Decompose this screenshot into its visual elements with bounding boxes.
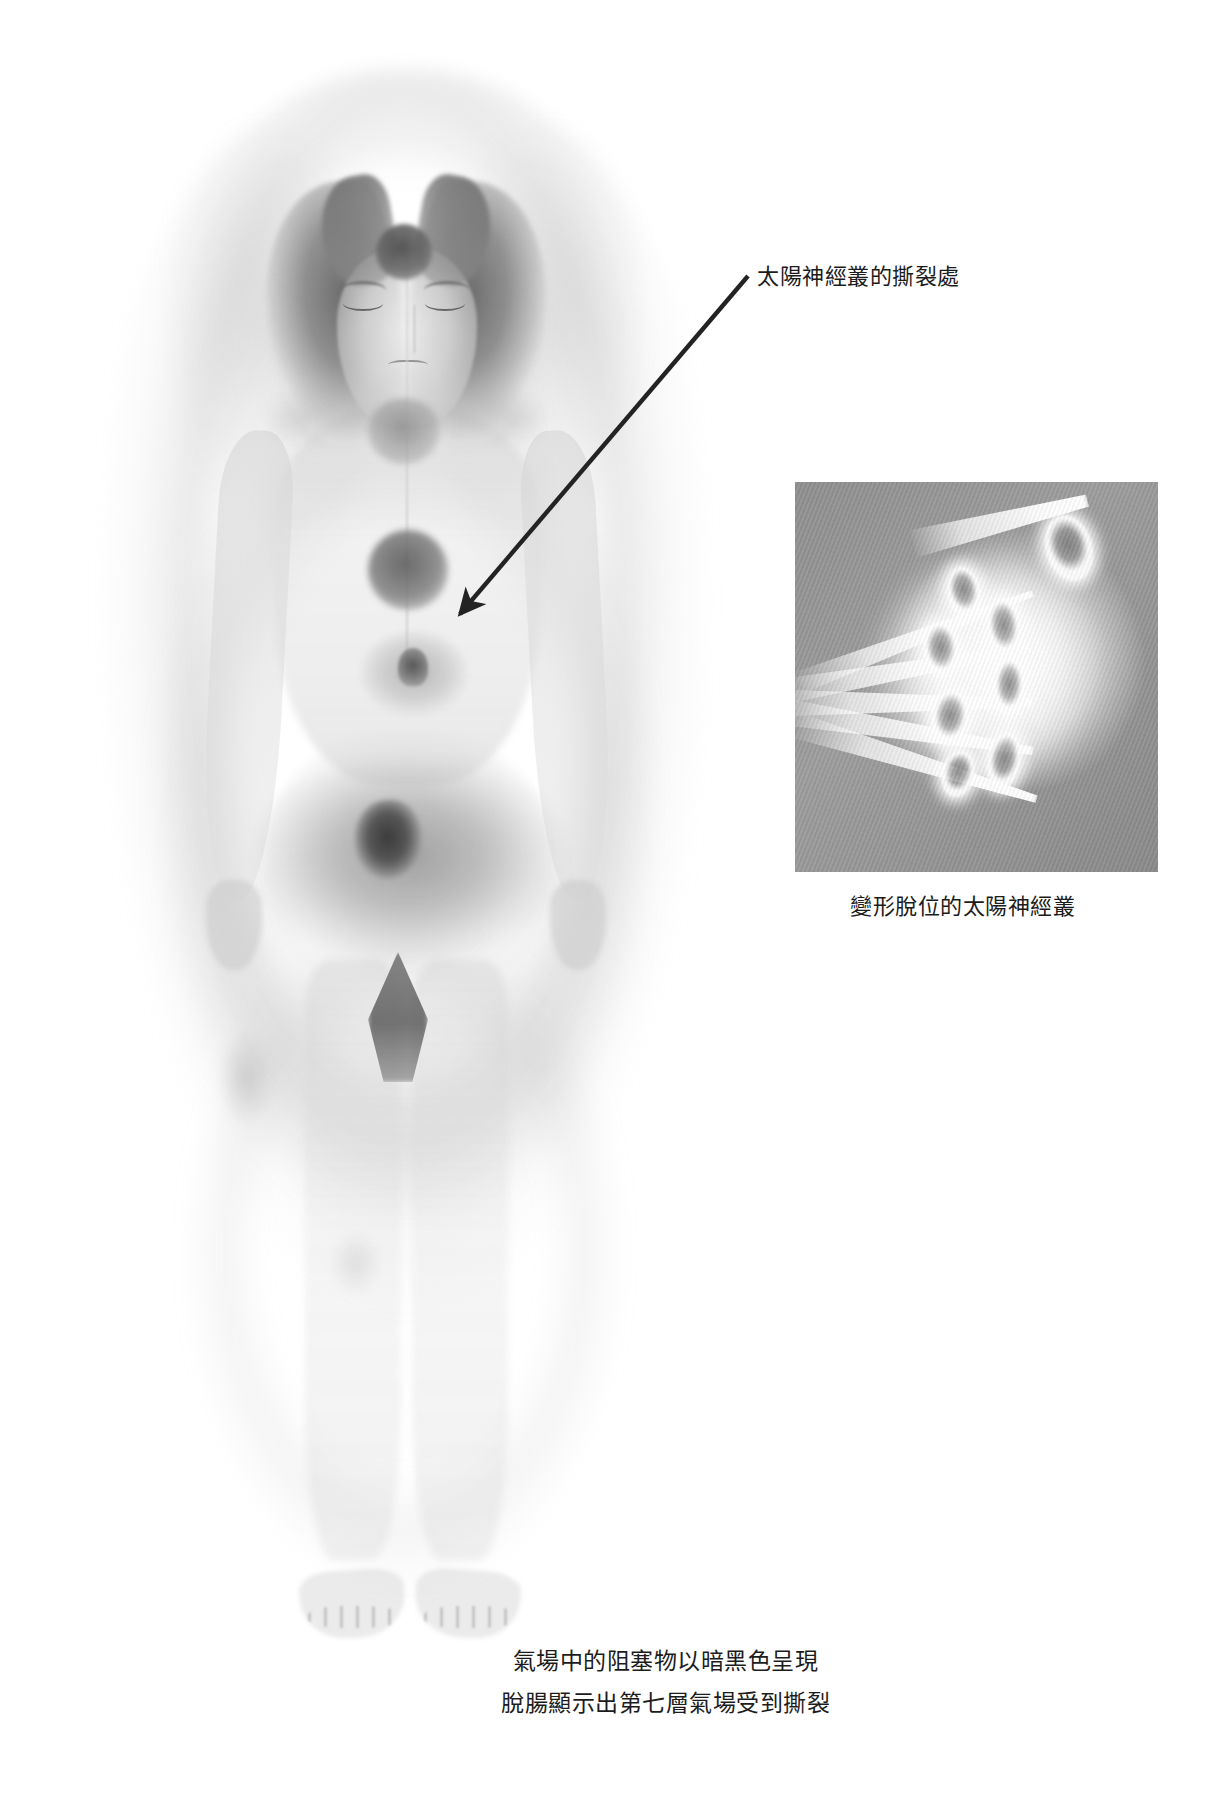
hand-right — [550, 880, 606, 970]
aura-spot-thigh-left — [218, 1030, 274, 1126]
central-energy-line — [406, 255, 408, 675]
toes-left — [308, 1606, 400, 1628]
label-inset-caption: 變形脫位的太陽神經叢 — [850, 888, 1075, 920]
eye-left-closed — [343, 296, 383, 311]
arm-right — [518, 428, 616, 901]
leg-right — [412, 960, 508, 1560]
hand-left — [206, 880, 262, 970]
foot-right — [413, 1566, 522, 1641]
foot-left — [298, 1566, 407, 1641]
toes-right — [424, 1606, 516, 1628]
hips — [268, 735, 548, 995]
solar-plexus-detail-panel — [795, 482, 1158, 872]
caption-line-1: 氣場中的阻塞物以暗黑色呈現 — [0, 1640, 1211, 1682]
arm-left — [198, 428, 296, 901]
leg-left — [305, 960, 401, 1560]
figure-caption: 氣場中的阻塞物以暗黑色呈現 脫腸顯示出第七層氣場受到撕裂 — [0, 1640, 1211, 1724]
eye-right-closed — [425, 296, 465, 311]
label-solar-plexus-tear: 太陽神經叢的撕裂處 — [757, 258, 960, 290]
illustration-page: 太陽神經叢的撕裂處 變形脫位的太陽神經叢 氣場中的阻塞物以暗黑色呈現 脫腸顯示出… — [0, 0, 1211, 1806]
torso — [275, 405, 540, 785]
caption-line-2: 脫腸顯示出第七層氣場受到撕裂 — [0, 1682, 1211, 1724]
